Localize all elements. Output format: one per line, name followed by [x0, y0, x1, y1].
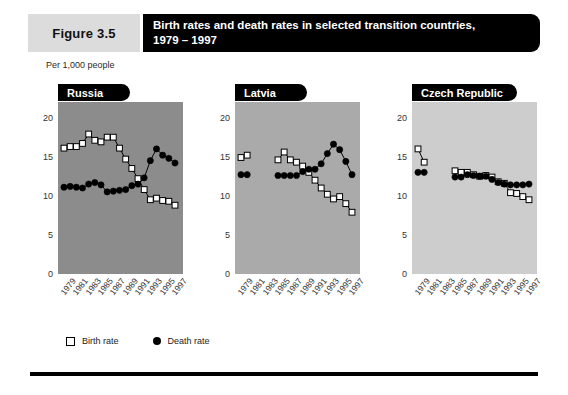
data-point-death-rate	[501, 181, 507, 187]
data-point-birth-rate	[349, 209, 355, 215]
data-point-birth-rate	[98, 139, 104, 145]
data-point-birth-rate	[514, 191, 520, 197]
plot-row-russia: 05101520	[28, 102, 183, 274]
data-point-death-rate	[244, 172, 250, 178]
data-point-death-rate	[153, 146, 159, 152]
plot-area-latvia	[235, 102, 360, 274]
y-axis-tick-label: 20	[220, 113, 230, 123]
data-point-birth-rate	[452, 168, 458, 174]
data-point-death-rate	[330, 141, 336, 147]
data-point-death-rate	[287, 172, 293, 178]
data-point-birth-rate	[275, 157, 281, 163]
data-point-death-rate	[67, 183, 73, 189]
y-axis-russia: 05101520	[28, 102, 56, 274]
panel-tab-label: Latvia	[244, 87, 276, 99]
x-axis-latvia: 1979198119831985198719891991199319951997	[235, 274, 360, 326]
figure-number: Figure 3.5	[28, 14, 140, 52]
data-point-birth-rate	[80, 141, 86, 147]
data-point-birth-rate	[318, 185, 324, 191]
y-axis-latvia: 05101520	[205, 102, 233, 274]
data-point-death-rate	[147, 158, 153, 164]
data-point-birth-rate	[117, 145, 123, 151]
data-point-death-rate	[135, 181, 141, 187]
data-point-death-rate	[520, 182, 526, 188]
data-point-birth-rate	[300, 163, 306, 169]
data-point-birth-rate	[61, 145, 67, 151]
panel-tab-label: Russia	[67, 87, 103, 99]
data-point-birth-rate	[294, 159, 300, 165]
data-point-death-rate	[86, 181, 92, 187]
data-point-death-rate	[337, 147, 343, 153]
units-label: Per 1,000 people	[46, 60, 115, 70]
chart-panel-russia: Russia0510152019791981198319851987198919…	[28, 84, 183, 326]
y-axis-tick-label: 5	[402, 230, 407, 240]
data-point-birth-rate	[343, 201, 349, 207]
data-point-birth-rate	[287, 157, 293, 163]
data-point-birth-rate	[141, 187, 147, 193]
data-point-birth-rate	[92, 137, 98, 143]
data-point-death-rate	[238, 172, 244, 178]
data-point-death-rate	[458, 174, 464, 180]
y-axis-tick-label: 0	[402, 269, 407, 279]
chart-panel-czech-republic: Czech Republic05101520197919811983198519…	[382, 84, 537, 326]
data-point-death-rate	[172, 160, 178, 166]
data-point-death-rate	[129, 183, 135, 189]
legend-label-death-rate: Death rate	[168, 336, 210, 346]
open-square-marker-icon	[66, 337, 75, 346]
bottom-rule	[30, 372, 538, 376]
data-point-birth-rate	[238, 155, 244, 161]
data-point-death-rate	[141, 175, 147, 181]
plot-area-russia	[58, 102, 183, 274]
data-point-death-rate	[166, 155, 172, 161]
data-point-death-rate	[79, 185, 85, 191]
data-point-birth-rate	[73, 144, 79, 150]
data-point-birth-rate	[154, 195, 160, 201]
x-axis-czech-republic: 1979198119831985198719891991199319951997	[412, 274, 537, 326]
data-point-birth-rate	[324, 191, 330, 197]
data-point-death-rate	[92, 179, 98, 185]
data-point-death-rate	[526, 181, 532, 187]
figure-title-line2: 1979 – 1997	[153, 33, 540, 48]
data-point-birth-rate	[160, 198, 166, 204]
data-point-birth-rate	[520, 194, 526, 200]
y-axis-tick-label: 20	[43, 113, 53, 123]
plot-background	[235, 102, 360, 274]
legend-label-birth-rate: Birth rate	[82, 336, 119, 346]
plot-area-czech-republic	[412, 102, 537, 274]
data-point-birth-rate	[104, 134, 110, 140]
y-axis-tick-label: 10	[397, 191, 407, 201]
y-axis-czech-republic: 05101520	[382, 102, 410, 274]
data-point-birth-rate	[331, 196, 337, 202]
data-point-death-rate	[421, 169, 427, 175]
y-axis-tick-label: 15	[43, 152, 53, 162]
data-point-death-rate	[318, 161, 324, 167]
y-axis-tick-label: 0	[48, 269, 53, 279]
data-point-death-rate	[415, 169, 421, 175]
data-point-death-rate	[275, 172, 281, 178]
data-point-death-rate	[312, 166, 318, 172]
data-point-death-rate	[514, 182, 520, 188]
chart-legend: Birth rate Death rate	[66, 336, 210, 346]
data-point-birth-rate	[415, 146, 421, 152]
figure-title-bar: Birth rates and death rates in selected …	[143, 14, 540, 52]
data-point-birth-rate	[147, 197, 153, 203]
panel-tab-latvia: Latvia	[235, 84, 307, 101]
y-axis-tick-label: 5	[48, 230, 53, 240]
data-point-death-rate	[349, 172, 355, 178]
y-axis-tick-label: 0	[225, 269, 230, 279]
data-point-death-rate	[470, 172, 476, 178]
plot-background	[412, 102, 537, 274]
y-axis-tick-label: 5	[225, 230, 230, 240]
plot-row-czech-republic: 05101520	[382, 102, 537, 274]
data-point-death-rate	[293, 172, 299, 178]
y-axis-tick-label: 20	[397, 113, 407, 123]
data-point-death-rate	[489, 176, 495, 182]
data-point-death-rate	[300, 168, 306, 174]
data-point-death-rate	[281, 172, 287, 178]
figure-header: Figure 3.5 Birth rates and death rates i…	[28, 14, 540, 52]
data-point-death-rate	[306, 166, 312, 172]
filled-circle-marker-icon	[153, 337, 161, 345]
data-point-birth-rate	[123, 156, 129, 162]
data-point-birth-rate	[67, 144, 73, 150]
data-point-death-rate	[452, 174, 458, 180]
